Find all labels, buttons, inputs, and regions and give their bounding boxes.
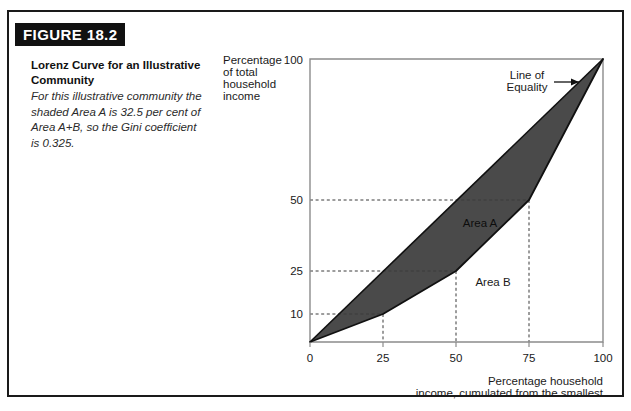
y-axis-title-line-3: household (223, 78, 276, 90)
y-tick-label-50: 50 (290, 194, 303, 206)
line-of-equality-label-line-1: Line of (510, 69, 545, 81)
line-of-equality-label-line-2: Equality (507, 81, 548, 93)
lorenz-curve (310, 59, 603, 342)
x-tick-label-100: 100 (593, 352, 612, 364)
x-axis-title-line-1: Percentage household (488, 375, 603, 387)
y-axis-title-line-4: income (223, 90, 260, 102)
plot-frame (310, 59, 603, 342)
caption-body-line-4: is 0.325. (31, 137, 74, 149)
x-tick-label-50: 50 (450, 352, 463, 364)
caption-body-line-3: Area A+B, so the Gini coefficient (31, 121, 196, 133)
y-axis-title-line-2: of total (223, 66, 258, 78)
y-tick-label-25: 25 (290, 265, 303, 277)
caption-heading: Lorenz Curve for an Illustrative Communi… (31, 58, 226, 87)
figure-caption: Lorenz Curve for an Illustrative Communi… (31, 58, 226, 151)
caption-body-line-1: For this illustrative community the (31, 90, 202, 102)
guide-lines (310, 200, 529, 342)
x-axis-ticks (310, 342, 603, 347)
x-axis-title-line-2: income, cumulated from the smallest (416, 387, 604, 399)
line-of-equality-arrow-icon (554, 79, 579, 86)
area-b-label: Area B (475, 276, 510, 288)
figure-number-label: FIGURE 18.2 (15, 23, 125, 46)
area-a-shaded-region (310, 59, 603, 342)
y-tick-label-100: 100 (284, 54, 303, 66)
area-a-label: Area A (463, 217, 498, 229)
caption-body: For this illustrative community the shad… (31, 89, 226, 151)
y-axis-title-line-1: Percentage (223, 54, 282, 66)
x-tick-label-25: 25 (377, 352, 390, 364)
line-of-equality (310, 59, 603, 342)
figure-banner: FIGURE 18.2 (15, 23, 125, 46)
caption-heading-line-1: Lorenz Curve for an Illustrative (31, 59, 200, 71)
x-tick-label-75: 75 (523, 352, 536, 364)
x-tick-label-0: 0 (307, 352, 313, 364)
y-tick-label-10: 10 (290, 308, 303, 320)
caption-body-line-2: shaded Area A is 32.5 per cent of (31, 106, 200, 118)
caption-heading-line-2: Community (31, 74, 94, 86)
figure-frame: FIGURE 18.2 Lorenz Curve for an Illustra… (7, 10, 624, 397)
